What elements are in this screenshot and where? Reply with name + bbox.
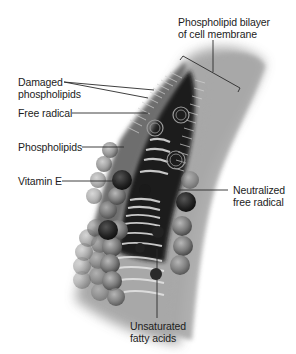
label-bilayer-line2: of cell membrane [178, 28, 270, 40]
label-damaged-line1: Damaged [18, 76, 81, 88]
label-bilayer-line1: Phospholipid bilayer [178, 16, 270, 28]
label-damaged-phospholipids: Damaged phospholipids [18, 76, 81, 100]
label-neutralized-free-radical: Neutralized free radical [233, 184, 285, 208]
label-unsaturated-fatty-acids: Unsaturated fatty acids [130, 320, 186, 344]
vitamin-e-molecule [98, 220, 118, 240]
vitamin-e-molecule [112, 170, 132, 190]
label-neutralized-line2: free radical [233, 196, 285, 208]
neutralized-radical-molecule [176, 192, 196, 212]
label-bilayer: Phospholipid bilayer of cell membrane [178, 16, 270, 40]
membrane-diagram: Phospholipid bilayer of cell membrane Da… [0, 0, 296, 354]
label-neutralized-line1: Neutralized [233, 184, 285, 196]
label-vitamin-e: Vitamin E [18, 175, 62, 187]
label-damaged-line2: phospholipids [18, 88, 81, 100]
label-free-radical: Free radical [18, 107, 72, 119]
label-unsaturated-line1: Unsaturated [130, 320, 186, 332]
label-unsaturated-line2: fatty acids [130, 332, 186, 344]
label-phospholipids: Phospholipids [18, 141, 82, 153]
